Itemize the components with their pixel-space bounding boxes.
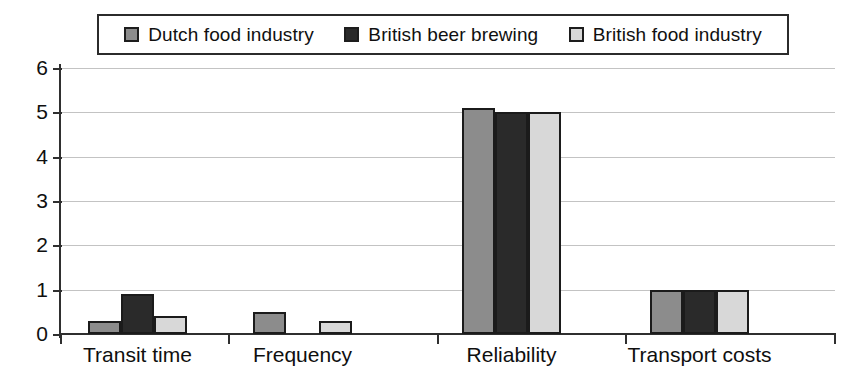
x-axis-label-reliability: Reliability (402, 343, 622, 367)
bar-chart: Dutch food industry British beer brewing… (0, 0, 853, 388)
x-axis-label-transport-costs: Transport costs (590, 343, 810, 367)
x-axis-label-frequency: Frequency (193, 343, 413, 367)
x-axis-labels: Transit timeFrequencyReliabilityTranspor… (0, 0, 853, 388)
